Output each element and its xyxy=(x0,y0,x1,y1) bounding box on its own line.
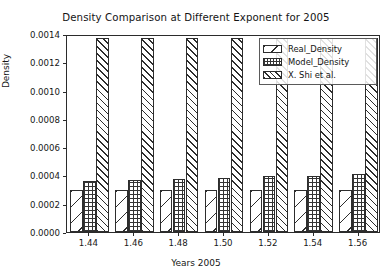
x-tick-label: 1.50 xyxy=(213,238,232,248)
y-tick-mark xyxy=(63,233,66,234)
x-tick-label: 1.56 xyxy=(348,238,367,248)
x-tick-mark xyxy=(88,233,89,236)
x-tick-label: 1.46 xyxy=(124,238,143,248)
bar xyxy=(352,174,365,232)
bar xyxy=(83,181,96,232)
legend-label: X. Shi et al. xyxy=(288,70,336,80)
x-axis-label: Years 2005 xyxy=(0,258,392,268)
y-tick-label: 0.0012 xyxy=(0,58,60,68)
chart-figure: Density Comparison at Different Exponent… xyxy=(0,0,392,279)
bar xyxy=(128,180,141,232)
bar xyxy=(186,38,199,232)
bar xyxy=(160,190,173,232)
chart-title: Density Comparison at Different Exponent… xyxy=(0,12,392,23)
bar xyxy=(70,190,83,232)
x-tick-label: 1.52 xyxy=(258,238,277,248)
x-tick-label: 1.44 xyxy=(79,238,98,248)
bar xyxy=(263,176,276,232)
bar xyxy=(231,38,244,232)
bar xyxy=(339,190,352,232)
legend-label: Real_Density xyxy=(288,44,342,54)
x-tick-mark xyxy=(178,233,179,236)
bar xyxy=(115,190,128,232)
legend-swatch-icon xyxy=(263,71,282,79)
y-tick-label: 0.0002 xyxy=(0,200,60,210)
bar xyxy=(294,190,307,232)
bar xyxy=(250,190,263,232)
bar xyxy=(205,190,218,232)
y-tick-label: 0.0008 xyxy=(0,115,60,125)
x-tick-mark xyxy=(358,233,359,236)
x-tick-mark xyxy=(313,233,314,236)
bar xyxy=(96,38,109,232)
x-tick-label: 1.54 xyxy=(303,238,322,248)
y-tick-label: 0.0006 xyxy=(0,143,60,153)
bar xyxy=(307,176,320,232)
y-tick-label: 0.0004 xyxy=(0,171,60,181)
y-tick-label: 0.0010 xyxy=(0,87,60,97)
legend-item: X. Shi et al. xyxy=(263,68,372,81)
bar xyxy=(218,178,231,232)
legend-item: Model_Density xyxy=(263,55,372,68)
legend-item: Real_Density xyxy=(263,42,372,55)
legend-swatch-icon xyxy=(263,45,282,53)
y-tick-label: 0.0000 xyxy=(0,228,60,238)
chart-legend: Real_DensityModel_DensityX. Shi et al. xyxy=(259,38,377,85)
x-tick-label: 1.48 xyxy=(169,238,188,248)
x-tick-mark xyxy=(133,233,134,236)
bar xyxy=(141,38,154,232)
x-tick-mark xyxy=(223,233,224,236)
legend-label: Model_Density xyxy=(288,57,349,67)
x-tick-mark xyxy=(268,233,269,236)
y-tick-label: 0.0014 xyxy=(0,30,60,40)
y-axis-label: Density xyxy=(1,31,11,111)
legend-swatch-icon xyxy=(263,58,282,66)
bar xyxy=(173,179,186,232)
